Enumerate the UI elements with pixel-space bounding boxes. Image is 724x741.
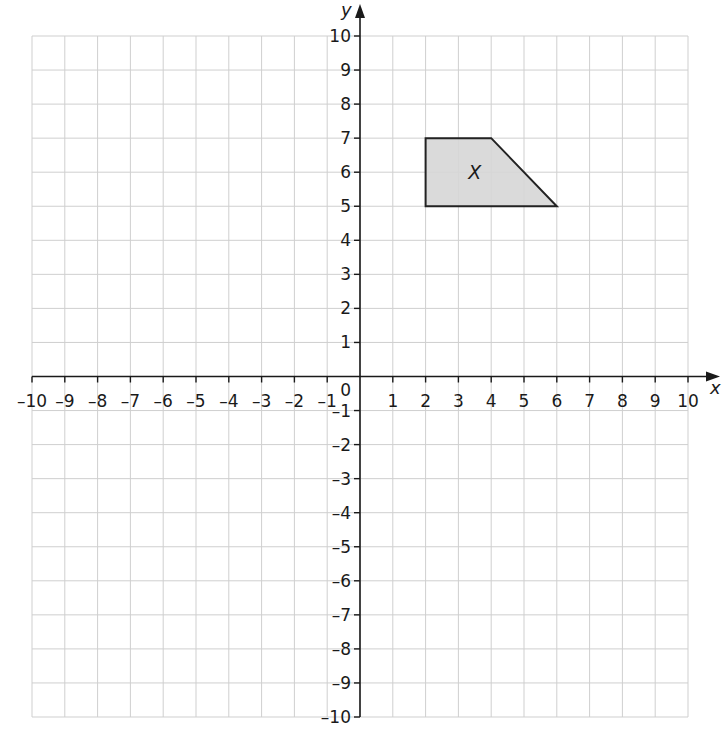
x-axis-label: x [709,377,721,398]
y-tick-label: –6 [332,571,351,591]
y-tick-label: –8 [332,639,351,659]
x-tick-label: 10 [677,391,699,411]
coordinate-grid: X –10–9–8–7–6–5–4–3–2–112345678910–10–9–… [0,0,724,741]
y-tick-label: –7 [332,605,351,625]
x-tick-label: –8 [88,391,107,411]
x-tick-label: 2 [420,391,431,411]
x-tick-label: –4 [219,391,238,411]
y-axis-label: y [340,0,352,20]
x-tick-label: –10 [17,391,47,411]
y-tick-label: 3 [340,264,351,284]
y-tick-label: 6 [340,162,351,182]
x-tick-label: –5 [186,391,205,411]
shape-label: X [467,161,482,183]
tick-labels: –10–9–8–7–6–5–4–3–2–112345678910–10–9–8–… [17,0,721,727]
y-tick-label: –2 [332,435,351,455]
y-tick-label: 1 [340,332,351,352]
y-tick-label: –1 [332,401,351,421]
x-tick-label: 3 [453,391,464,411]
y-tick-label: 9 [340,60,351,80]
x-tick-label: –2 [285,391,304,411]
x-tick-label: –6 [154,391,173,411]
x-tick-label: 6 [551,391,562,411]
y-tick-label: –5 [332,537,351,557]
y-tick-label: –10 [321,707,351,727]
x-tick-label: –3 [252,391,271,411]
y-tick-label: –9 [332,673,351,693]
y-tick-label: –4 [332,503,351,523]
y-tick-label: 2 [340,298,351,318]
x-tick-label: 1 [387,391,398,411]
axes [32,4,720,717]
x-tick-label: 7 [584,391,595,411]
origin-label: 0 [340,380,351,400]
x-tick-label: –7 [121,391,140,411]
y-tick-label: 7 [340,128,351,148]
y-tick-label: 10 [329,26,351,46]
y-axis-arrow-icon [355,4,365,18]
x-tick-label: 8 [617,391,628,411]
x-tick-label: 5 [519,391,530,411]
x-tick-label: 4 [486,391,497,411]
y-tick-label: 4 [340,230,351,250]
y-tick-label: 5 [340,196,351,216]
y-tick-label: 8 [340,94,351,114]
x-tick-label: –9 [55,391,74,411]
x-tick-label: 9 [650,391,661,411]
y-tick-label: –3 [332,469,351,489]
